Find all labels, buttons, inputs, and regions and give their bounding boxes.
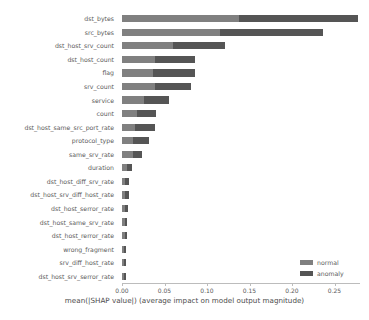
bar-row [122, 205, 360, 212]
bar-row [122, 15, 360, 22]
bar-row [122, 96, 360, 103]
y-tick-label: service [92, 97, 114, 104]
bar-segment-anomaly [133, 137, 149, 144]
bar-segment-anomaly [124, 246, 126, 253]
bar-segment-normal [122, 15, 239, 22]
bar-row [122, 56, 360, 63]
bar-segment-anomaly [135, 124, 155, 131]
y-tick-label: dst_host_serror_rate [51, 205, 114, 212]
bar-row [122, 110, 360, 117]
bar-row [122, 164, 360, 171]
bar-segment-anomaly [127, 164, 132, 171]
stacked-bar [122, 205, 128, 212]
x-tick-mark [165, 283, 166, 286]
y-tick-label: dst_host_count [67, 56, 114, 63]
legend-item-normal: normal [300, 258, 344, 267]
bar-row [122, 232, 360, 239]
bar-segment-normal [122, 96, 144, 103]
legend: normal anomaly [300, 258, 344, 280]
bar-segment-normal [122, 124, 135, 131]
stacked-bar [122, 273, 126, 280]
bar-segment-anomaly [155, 56, 195, 63]
bar-segment-anomaly [124, 259, 126, 266]
stacked-bar [122, 164, 132, 171]
x-tick-mark [207, 283, 208, 286]
x-tick-mark [250, 283, 251, 286]
stacked-bar [122, 42, 225, 49]
bar-segment-normal [122, 137, 133, 144]
x-tick-label: 0.05 [158, 287, 171, 294]
x-tick-mark [292, 283, 293, 286]
bar-row [122, 246, 360, 253]
y-tick-label: dst_bytes [84, 15, 114, 22]
bar-row [122, 191, 360, 198]
x-tick-label: 0.00 [115, 287, 128, 294]
y-tick-label: srv_diff_host_rate [59, 259, 114, 266]
y-tick-label: dst_host_srv_serror_rate [38, 273, 114, 280]
bar-segment-anomaly [137, 110, 156, 117]
y-tick-label: wrong_fragment [63, 246, 114, 253]
bar-row [122, 124, 360, 131]
bar-segment-anomaly [144, 96, 170, 103]
bar-segment-normal [122, 56, 155, 63]
bar-segment-anomaly [239, 15, 358, 22]
bar-row [122, 29, 360, 36]
bar-row [122, 137, 360, 144]
bar-segment-anomaly [125, 178, 128, 185]
bar-segment-anomaly [153, 69, 195, 76]
bar-segment-normal [122, 83, 155, 90]
stacked-bar [122, 56, 195, 63]
stacked-bar [122, 15, 358, 22]
stacked-bar [122, 191, 129, 198]
bar-segment-normal [122, 29, 220, 36]
bar-segment-anomaly [124, 273, 126, 280]
bar-segment-normal [122, 110, 137, 117]
bar-segment-anomaly [125, 232, 128, 239]
y-tick-label: dst_host_srv_count [55, 42, 114, 49]
stacked-bar [122, 151, 142, 158]
stacked-bar [122, 246, 126, 253]
bar-segment-normal [122, 42, 173, 49]
stacked-bar [122, 110, 156, 117]
legend-swatch-anomaly [300, 271, 313, 276]
legend-swatch-normal [300, 260, 313, 265]
x-tick-mark [335, 283, 336, 286]
y-tick-label: dst_host_srv_diff_host_rate [30, 191, 114, 198]
bar-segment-normal [122, 69, 153, 76]
y-tick-label: dst_host_diff_srv_rate [47, 178, 114, 185]
y-tick-label: dst_host_same_src_port_rate [24, 124, 114, 131]
x-axis-title: mean(|SHAP value|) (average impact on mo… [0, 296, 369, 305]
x-tick-label: 0.10 [200, 287, 213, 294]
x-tick-mark [122, 283, 123, 286]
legend-item-anomaly: anomaly [300, 269, 344, 278]
bar-rows [122, 12, 360, 283]
stacked-bar [122, 29, 323, 36]
y-tick-label: duration [88, 164, 114, 171]
x-tick-label: 0.20 [285, 287, 298, 294]
bar-segment-anomaly [125, 218, 128, 225]
y-tick-label: protocol_type [72, 137, 114, 144]
bar-row [122, 69, 360, 76]
bar-segment-anomaly [133, 151, 142, 158]
y-tick-label: flag [102, 69, 114, 76]
stacked-bar [122, 137, 149, 144]
stacked-bar [122, 232, 127, 239]
stacked-bar [122, 178, 129, 185]
stacked-bar [122, 259, 126, 266]
stacked-bar [122, 83, 191, 90]
y-tick-label: srv_count [84, 83, 114, 90]
bar-segment-anomaly [125, 205, 128, 212]
y-tick-label: count [97, 110, 114, 117]
bar-row [122, 42, 360, 49]
y-tick-label: dst_host_same_srv_rate [40, 219, 114, 226]
y-tick-label: dst_host_rerror_rate [52, 232, 114, 239]
bar-row [122, 178, 360, 185]
y-tick-label: src_bytes [85, 29, 114, 36]
bar-row [122, 83, 360, 90]
bar-row [122, 151, 360, 158]
x-tick-label: 0.15 [243, 287, 256, 294]
legend-label-anomaly: anomaly [317, 270, 344, 277]
stacked-bar [122, 124, 155, 131]
y-axis-tick-labels: dst_bytessrc_bytesdst_host_srv_countdst_… [0, 12, 118, 283]
legend-label-normal: normal [317, 259, 339, 266]
